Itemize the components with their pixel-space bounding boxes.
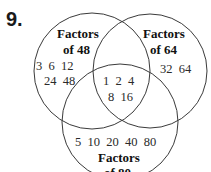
only-80-row1: 5 10 20 40 80 <box>75 136 156 149</box>
problem-number: 9. <box>6 8 23 31</box>
label-48-line2: of 48 <box>63 43 90 56</box>
label-64-line2: of 64 <box>150 43 177 56</box>
only-48-row2: 24 48 <box>44 75 75 88</box>
label-48-line1: Factors <box>57 27 99 40</box>
intersection-all-row2: 8 16 <box>108 91 133 104</box>
venn-diagram-figure: 9. Factors of 48 3 6 12 24 48 Factors of… <box>0 0 211 172</box>
only-48-row1: 3 6 12 <box>36 60 74 73</box>
only-64-row1: 32 64 <box>160 63 191 76</box>
label-80-line2: of 80 <box>104 166 131 172</box>
intersection-all-row1: 1 2 4 <box>103 75 134 88</box>
label-64-line1: Factors <box>143 27 185 40</box>
label-80-line1: Factors <box>98 151 140 164</box>
